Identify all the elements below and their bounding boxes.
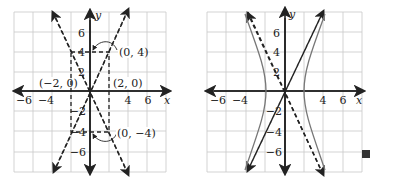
y-tick-2: 2 <box>273 66 280 79</box>
x-tick-neg6: −6 <box>210 94 226 107</box>
y-tick-6: 6 <box>78 27 85 40</box>
x-tick-neg6: −6 <box>16 94 32 107</box>
label-point-2-0: (2, 0) <box>113 77 143 90</box>
y-tick-neg6: −6 <box>266 146 282 159</box>
y-axis-label: y <box>288 8 296 21</box>
x-tick-6: 6 <box>145 94 152 107</box>
y-tick-2: 2 <box>78 66 85 79</box>
left-graph-asymptotes-rectangle: −6 −4 4 6 x y 6 4 2 −2 −4 −6 (0, 4) (0, … <box>0 0 200 183</box>
label-point-0-4: (0, 4) <box>119 46 149 59</box>
label-point-0-neg4: (0, −4) <box>117 127 156 140</box>
x-tick-4: 4 <box>125 94 132 107</box>
y-tick-6: 6 <box>273 27 280 40</box>
y-tick-neg4: −4 <box>266 126 282 139</box>
hyperbola-left-branch <box>245 14 266 170</box>
y-tick-neg2: −2 <box>70 105 86 118</box>
x-tick-4: 4 <box>320 94 327 107</box>
y-tick-4: 4 <box>273 46 280 59</box>
hyperbola-right-branch <box>304 14 325 170</box>
end-of-proof-square-icon <box>362 150 370 158</box>
curved-arrow-bottom <box>93 133 117 141</box>
x-axis-label: x <box>356 94 363 107</box>
y-tick-4: 4 <box>78 46 85 59</box>
y-tick-neg6: −6 <box>70 146 86 159</box>
y-tick-neg4: −4 <box>70 126 86 139</box>
y-tick-neg2: −2 <box>266 105 282 118</box>
x-tick-neg4: −4 <box>38 94 54 107</box>
x-tick-6: 6 <box>340 94 347 107</box>
x-axis-label: x <box>164 94 171 107</box>
x-tick-neg4: −4 <box>232 94 248 107</box>
left-graph-svg: −6 −4 4 6 x y 6 4 2 −2 −4 −6 (0, 4) (0, … <box>0 0 200 183</box>
y-axis-label: y <box>94 9 102 22</box>
label-point-neg2-0: (−2, 0) <box>39 77 78 90</box>
